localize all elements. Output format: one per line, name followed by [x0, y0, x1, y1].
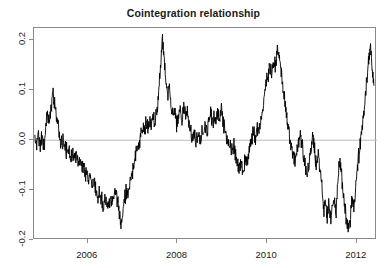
y-tick-label: 0.0 [16, 125, 27, 153]
y-tick-label: 0.2 [16, 25, 27, 53]
x-tick-label: 2010 [246, 249, 286, 260]
x-tick-label: 2006 [67, 249, 107, 260]
x-tick-mark [87, 239, 88, 243]
x-tick-mark [176, 239, 177, 243]
x-tick-mark [356, 239, 357, 243]
x-tick-label: 2008 [156, 249, 196, 260]
y-tick-label: -0.1 [16, 175, 27, 203]
x-tick-mark [266, 239, 267, 243]
data-series-line [35, 34, 374, 232]
x-tick-label: 2012 [336, 249, 376, 260]
y-tick-label: 0.1 [16, 75, 27, 103]
y-tick-label: -0.2 [16, 225, 27, 253]
plot-area [33, 27, 376, 239]
y-tick-mark [29, 239, 33, 240]
line-chart-svg [34, 28, 377, 240]
chart-title: Cointegration relationship [0, 7, 387, 19]
chart-screenshot: Cointegration relationship 0.20.10.0-0.1… [0, 0, 387, 268]
